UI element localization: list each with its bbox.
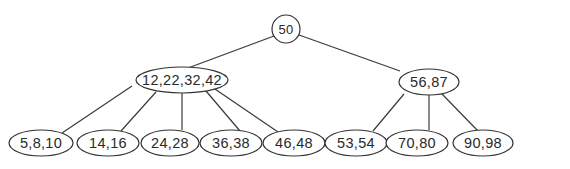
node-leaf-6: 70,80 xyxy=(386,130,448,156)
edge-root-l1-right xyxy=(299,35,400,71)
node-leaf-5-keys: 53,54 xyxy=(337,135,375,151)
node-l1-left-keys: 12,22,32,42 xyxy=(142,72,222,88)
node-leaf-0-keys: 5,8,10 xyxy=(20,135,62,151)
node-leaf-1-keys: 14,16 xyxy=(89,135,127,151)
node-leaf-7: 90,98 xyxy=(453,130,513,156)
node-leaf-7-keys: 90,98 xyxy=(464,135,502,151)
edge-root-l1-left xyxy=(188,36,274,68)
node-leaf-2: 24,28 xyxy=(141,130,199,156)
edge-l1right-leaf7 xyxy=(442,94,478,131)
b-tree-diagram: 50 12,22,32,42 56,87 5,8,10 14,16 24,28 … xyxy=(0,0,570,169)
node-leaf-3: 36,38 xyxy=(200,130,262,156)
edge-l1left-leaf3 xyxy=(206,91,240,131)
node-leaf-5: 53,54 xyxy=(325,130,387,156)
edge-l1left-leaf0 xyxy=(62,86,132,133)
node-l1-right: 56,87 xyxy=(399,69,459,95)
node-leaf-6-keys: 70,80 xyxy=(398,135,436,151)
node-leaf-4-keys: 46,48 xyxy=(275,135,313,151)
node-root: 50 xyxy=(272,15,300,43)
node-leaf-3-keys: 36,38 xyxy=(212,135,250,151)
node-leaf-4: 46,48 xyxy=(263,130,325,156)
node-l1-left: 12,22,32,42 xyxy=(136,67,228,93)
node-root-keys: 50 xyxy=(278,22,293,37)
node-l1-right-keys: 56,87 xyxy=(410,74,448,90)
node-leaf-0: 5,8,10 xyxy=(9,130,73,156)
edge-l1right-leaf5 xyxy=(373,94,404,131)
node-leaf-1: 14,16 xyxy=(77,130,139,156)
node-leaf-2-keys: 24,28 xyxy=(151,135,189,151)
edge-l1left-leaf1 xyxy=(121,92,156,131)
